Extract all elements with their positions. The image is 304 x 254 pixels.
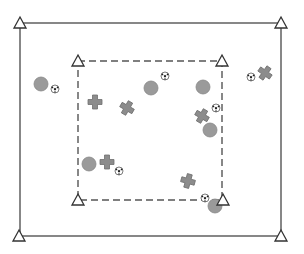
drill-diagram xyxy=(0,0,304,254)
player-cross-icon xyxy=(179,172,196,189)
soccer-ball-icon xyxy=(212,104,220,112)
player-circle-icon xyxy=(203,123,217,137)
players-layer xyxy=(34,63,275,213)
player-cross-icon xyxy=(192,106,211,125)
player-circle-icon xyxy=(34,77,48,91)
soccer-ball-icon xyxy=(51,85,59,93)
cones-layer xyxy=(13,17,287,241)
player-circle-icon xyxy=(196,80,210,94)
player-circle-icon xyxy=(144,81,158,95)
soccer-ball-icon xyxy=(115,167,123,175)
soccer-ball-icon xyxy=(201,194,209,202)
field-canvas xyxy=(0,0,304,254)
player-cross-icon xyxy=(88,95,102,109)
cone-icon-inner-top-right xyxy=(216,55,228,66)
player-cross-icon xyxy=(255,63,274,82)
outer-field-boundary xyxy=(20,23,281,236)
player-cross-icon xyxy=(100,155,114,169)
field-lines xyxy=(20,23,281,236)
soccer-ball-icon xyxy=(161,72,169,80)
soccer-ball-icon xyxy=(247,73,255,81)
player-circle-icon xyxy=(82,157,96,171)
player-cross-icon xyxy=(117,98,136,117)
